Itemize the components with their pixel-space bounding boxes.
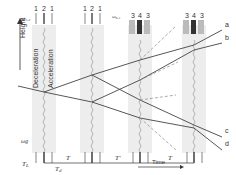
output-port-labels: a b c d: [225, 21, 229, 147]
port-d: d: [225, 140, 229, 147]
svg-text:2: 2: [90, 5, 94, 12]
beam-icon-g1: [36, 13, 52, 24]
svg-text:3: 3: [200, 12, 204, 19]
TL-label: TL: [22, 160, 29, 168]
svg-text:3: 3: [146, 12, 150, 19]
svg-text:4: 4: [192, 12, 196, 19]
freq-label-omega34: ω₃,₄: [112, 14, 121, 20]
pulse-group-3: ω₃,₄ 3 4 3: [112, 12, 150, 20]
height-axis: Height: [17, 18, 27, 70]
pulse-group-2: 1 2 1: [83, 5, 102, 12]
port-b: b: [225, 34, 229, 41]
svg-text:1: 1: [98, 5, 102, 12]
acceleration-label: Acceleration: [47, 49, 54, 88]
atom-interferometer-diagram: Height Deceleration Acceleration ω₁,₂ 1 …: [0, 0, 236, 175]
port-c: c: [225, 127, 229, 134]
lattice-icon-g4: [183, 20, 204, 34]
interval-T-1: T: [66, 154, 71, 162]
svg-text:2: 2: [42, 5, 46, 12]
lattice-icon-g3: [129, 20, 150, 34]
svg-text:1: 1: [34, 5, 38, 12]
Td-label: Td: [55, 165, 62, 173]
svg-text:3: 3: [131, 12, 135, 19]
svg-text:3: 3: [185, 12, 189, 19]
deceleration-label: Deceleration: [32, 49, 39, 88]
svg-text:4: 4: [138, 12, 142, 19]
port-a: a: [225, 21, 229, 28]
beam-icon-g2: [85, 13, 100, 24]
svg-text:1: 1: [50, 5, 54, 12]
svg-text:1: 1: [83, 5, 87, 12]
interval-T-2: T: [168, 154, 173, 162]
pulse-group-1: ω₁,₂ 1 2 1: [22, 5, 54, 22]
omega-g-label: ωg: [21, 138, 28, 144]
interval-T-prime: T': [115, 154, 121, 162]
pulse-group-4: 3 4 3: [185, 12, 204, 19]
time-axis-label: Time: [152, 159, 166, 165]
